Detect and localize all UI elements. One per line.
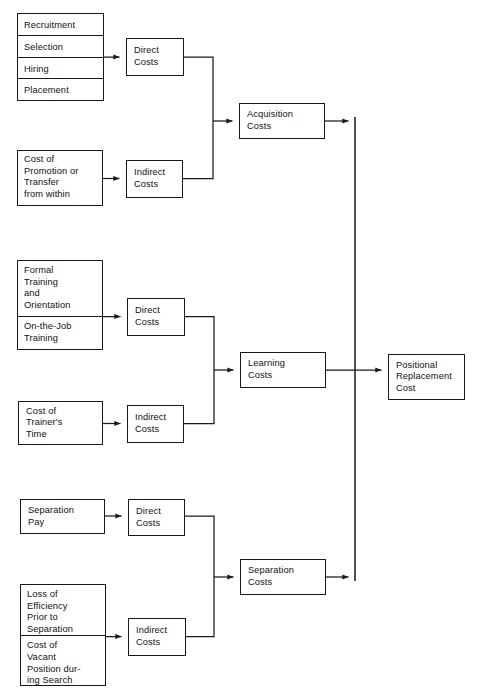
label-direct-costs-acquisition: Direct Costs: [127, 45, 183, 68]
label-indirect-costs-acquisition: Indirect Costs: [127, 167, 182, 190]
elbow-indirect-to-separation: [186, 577, 214, 637]
input-separation-pay: Separation Pay: [21, 505, 104, 528]
label-acquisition-costs: Acquisition Costs: [240, 109, 324, 132]
label-direct-costs-separation: Direct Costs: [129, 506, 184, 529]
node-separation-costs: Separation Costs: [240, 559, 326, 595]
node-positional-replacement-cost: Positional Replacement Cost: [388, 354, 465, 400]
input-cost-of-trainers-time: Cost of Trainer's Time: [19, 406, 102, 441]
node-cost-of-trainers-time: Cost of Trainer's Time: [18, 401, 103, 445]
label-positional-replacement-cost: Positional Replacement Cost: [389, 360, 464, 395]
label-indirect-costs-learning: Indirect Costs: [128, 412, 183, 435]
input-cost-of-vacant-position: Cost of Vacant Position dur- ing Search: [27, 640, 105, 686]
node-cost-of-promotion: Cost of Promotion or Transfer from withi…: [17, 150, 103, 206]
node-acquisition-indirect-costs: Indirect Costs: [126, 160, 183, 198]
elbow-direct-to-acquisition: [184, 57, 213, 121]
input-placement: Placement: [24, 85, 103, 97]
input-hiring: Hiring: [24, 64, 103, 76]
label-learning-costs: Learning Costs: [241, 358, 325, 381]
elbow-direct-to-separation: [185, 516, 214, 577]
elbow-indirect-to-learning: [184, 370, 214, 424]
node-separation-indirect-inputs: Loss of Efficiency Prior to Separation C…: [20, 584, 106, 686]
node-acquisition-direct-costs: Direct Costs: [126, 38, 184, 76]
node-learning-indirect-costs: Indirect Costs: [127, 405, 184, 443]
input-selection: Selection: [24, 42, 103, 54]
node-learning-direct-inputs: Formal Training and Orientation On-the-J…: [17, 260, 103, 350]
flowchart-diagram: Recruitment Selection Hiring Placement D…: [0, 0, 478, 699]
label-indirect-costs-separation: Indirect Costs: [129, 625, 185, 648]
input-formal-training: Formal Training and Orientation: [24, 265, 102, 311]
node-learning-direct-costs: Direct Costs: [127, 298, 185, 336]
input-loss-of-efficiency: Loss of Efficiency Prior to Separation: [27, 589, 105, 635]
input-on-the-job-training: On-the-Job Training: [24, 321, 102, 344]
elbow-direct-to-learning: [185, 317, 214, 371]
elbow-indirect-to-acquisition: [183, 121, 213, 179]
label-direct-costs-learning: Direct Costs: [128, 305, 184, 328]
node-separation-direct-costs: Direct Costs: [128, 499, 185, 536]
node-acquisition-costs: Acquisition Costs: [239, 103, 325, 139]
input-cost-of-promotion: Cost of Promotion or Transfer from withi…: [18, 151, 102, 200]
node-separation-indirect-costs: Indirect Costs: [128, 618, 186, 656]
node-separation-pay: Separation Pay: [20, 499, 105, 534]
node-acquisition-direct-inputs: Recruitment Selection Hiring Placement: [17, 13, 104, 101]
node-learning-costs: Learning Costs: [240, 352, 326, 388]
label-separation-costs: Separation Costs: [241, 565, 325, 588]
input-recruitment: Recruitment: [24, 20, 103, 32]
